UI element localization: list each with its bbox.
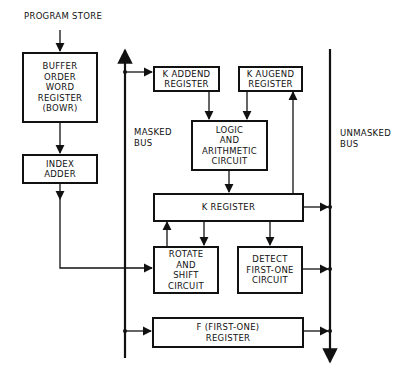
program-store-label: PROGRAM STORE <box>24 11 102 22</box>
box-text: WORD <box>46 82 75 93</box>
masked-bus-label: MASKED BUS <box>134 127 172 149</box>
label-text: UNMASKED <box>340 128 391 139</box>
label-text: BUS <box>340 139 391 150</box>
box-text: K ADDEND <box>163 69 211 80</box>
box-text: FIRST-ONE <box>246 265 294 276</box>
box-text: REGISTER <box>38 93 83 104</box>
box-text: CIRCUIT <box>212 156 248 167</box>
rotate-shift-circuit-box: ROTATE AND SHIFT CIRCUIT <box>153 246 219 294</box>
box-text: CIRCUIT <box>252 275 288 286</box>
box-text: ORDER <box>44 72 76 83</box>
box-text: K AUGEND <box>247 69 295 80</box>
box-text: REGISTER <box>248 79 293 90</box>
f-first-one-register-box: F (FIRST-ONE) REGISTER <box>152 317 304 348</box>
box-text: LOGIC <box>216 125 244 136</box>
box-text: ROTATE <box>169 249 204 260</box>
logic-arithmetic-circuit-box: LOGIC AND ARITHMETIC CIRCUIT <box>191 120 268 171</box>
box-text: DETECT <box>252 254 287 265</box>
label-text: BUS <box>134 138 172 149</box>
box-text: INDEX <box>46 159 74 170</box>
detect-first-one-circuit-box: DETECT FIRST-ONE CIRCUIT <box>237 246 303 294</box>
unmasked-bus-label: UNMASKED BUS <box>340 128 391 150</box>
box-text: ADDER <box>44 169 76 180</box>
k-addend-register-box: K ADDEND REGISTER <box>153 66 220 92</box>
box-text: K REGISTER <box>202 202 256 213</box>
box-text: SHIFT <box>173 270 199 281</box>
box-text: (BOWR) <box>42 103 77 114</box>
box-text: ARITHMETIC <box>202 146 257 157</box>
k-register-box: K REGISTER <box>153 193 304 222</box>
box-text: AND <box>176 260 196 271</box>
box-text: REGISTER <box>164 79 209 90</box>
box-text: CIRCUIT <box>168 281 204 292</box>
box-text: F (FIRST-ONE) <box>197 322 260 333</box>
label-text: MASKED <box>134 127 172 138</box>
bowr-box: BUFFER ORDER WORD REGISTER (BOWR) <box>22 52 98 123</box>
k-augend-register-box: K AUGEND REGISTER <box>238 66 303 92</box>
index-adder-box: INDEX ADDER <box>22 154 98 184</box>
box-text: BUFFER <box>43 61 78 72</box>
box-text: REGISTER <box>206 333 251 344</box>
box-text: AND <box>220 135 240 146</box>
